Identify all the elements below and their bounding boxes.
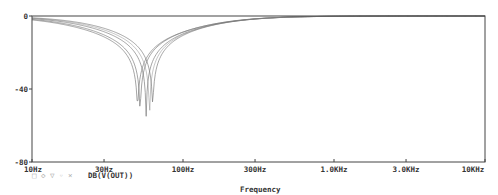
frequency-response-chart: 10Hz30Hz100Hz300Hz1.0KHz3.0KHz10KHz 0-40…: [0, 0, 498, 195]
trace-group: [32, 16, 485, 116]
y-tick-label: -40: [14, 85, 28, 94]
x-tick-label: 1.0KHz: [320, 165, 347, 174]
x-tick-label: 3.0KHz: [392, 165, 419, 174]
trace-line: [32, 16, 485, 106]
x-tick-label: 100Hz: [172, 165, 195, 174]
trace-line: [32, 16, 485, 116]
x-tick-label: 10KHz: [462, 165, 485, 174]
x-axis-title: Frequency: [240, 185, 281, 194]
y-tick-label: -80: [14, 158, 28, 167]
legend: □ ◇ ▽ ◦ × DB(V(OUT)): [32, 171, 133, 180]
legend-marker-symbols: □ ◇ ▽ ◦ ×: [32, 171, 73, 180]
x-tick-label: 300Hz: [244, 165, 267, 174]
plot-frame: [32, 16, 485, 162]
y-axis: 0-40-80: [14, 12, 32, 167]
y-tick-label: 0: [23, 12, 28, 21]
legend-label: DB(V(OUT)): [88, 171, 133, 180]
